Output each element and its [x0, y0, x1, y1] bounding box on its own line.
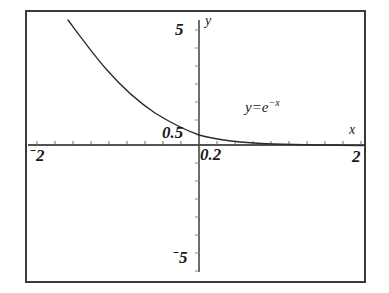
figure-canvas: 5 y 0.5 0.2 y=e−x x 2 ⁻2 ⁻5 [0, 0, 389, 293]
y-axis [195, 20, 199, 272]
y-axis-bottom-value-digits: 5 [179, 248, 188, 267]
x-axis-left-value: ⁻2 [30, 147, 45, 164]
y-axis-label: y [205, 14, 211, 28]
y-axis-top-value: 5 [175, 21, 184, 38]
y-value-half: 0.5 [162, 124, 183, 141]
curve-exponential-decay [68, 20, 363, 146]
equation-exponent-var: x [275, 97, 279, 108]
x-axis-right-value: 2 [352, 148, 361, 165]
axes-and-curve [25, 10, 366, 283]
equation-exponent: −x [268, 97, 279, 108]
x-axis-label: x [349, 123, 355, 137]
plot-area [25, 10, 366, 283]
x-axis-left-value-digits: 2 [36, 146, 45, 165]
curve-equation-label: y=e−x [245, 98, 280, 115]
y-axis-bottom-value: ⁻5 [173, 249, 188, 266]
equation-equals: = [252, 99, 262, 115]
x-value-point-two: 0.2 [200, 146, 221, 163]
equation-y: y [245, 99, 252, 115]
